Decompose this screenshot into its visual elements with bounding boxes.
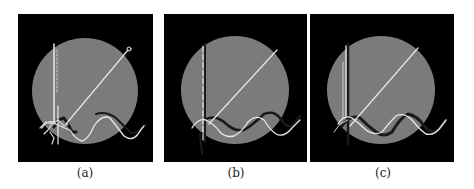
panel-c [310,14,454,162]
panel-b-image [164,14,307,162]
panel-a [18,14,153,162]
panel-b [164,14,307,162]
panel-a-image [18,14,153,162]
disk [32,38,138,144]
panel-c-image [310,14,454,162]
caption-c: (c) [363,166,403,180]
caption-a: (a) [65,166,105,180]
caption-b: (b) [216,166,256,180]
disk [181,36,289,144]
